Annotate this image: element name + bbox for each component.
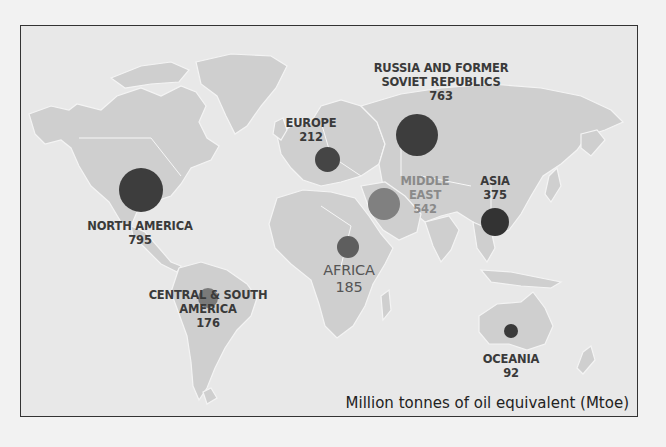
- label-middle-east: MIDDLE EAST 542: [385, 174, 465, 216]
- region-name: CENTRAL & SOUTH: [133, 288, 283, 302]
- region-name-line2: SOVIET REPUBLICS: [361, 75, 521, 89]
- region-value: 176: [133, 316, 283, 330]
- region-name: ASIA: [465, 174, 525, 188]
- label-oceania: OCEANIA 92: [476, 352, 546, 380]
- region-value: 92: [476, 366, 546, 380]
- bubble-north-america: [119, 168, 163, 212]
- label-europe: EUROPE 212: [275, 116, 347, 144]
- region-name: OCEANIA: [476, 352, 546, 366]
- region-name-line2: AMERICA: [133, 302, 283, 316]
- region-name: RUSSIA AND FORMER: [361, 61, 521, 75]
- region-name: AFRICA: [309, 262, 389, 279]
- region-name: NORTH AMERICA: [65, 219, 215, 233]
- region-value: 763: [361, 89, 521, 103]
- bubble-asia: [481, 208, 509, 236]
- label-north-america: NORTH AMERICA 795: [65, 219, 215, 247]
- world-map-frame: NORTH AMERICA 795 CENTRAL & SOUTH AMERIC…: [20, 25, 638, 417]
- region-value: 212: [275, 130, 347, 144]
- unit-caption: Million tonnes of oil equivalent (Mtoe): [346, 394, 629, 412]
- region-value: 542: [385, 202, 465, 216]
- region-value: 185: [309, 279, 389, 296]
- label-africa: AFRICA 185: [309, 262, 389, 296]
- bubble-oceania: [504, 324, 518, 338]
- label-russia: RUSSIA AND FORMER SOVIET REPUBLICS 763: [361, 61, 521, 103]
- region-name: EUROPE: [275, 116, 347, 130]
- australia-landmass: [479, 292, 553, 350]
- region-name-line2: EAST: [385, 188, 465, 202]
- region-value: 795: [65, 233, 215, 247]
- region-value: 375: [465, 188, 525, 202]
- greenland-landmass: [196, 54, 287, 134]
- bubble-africa: [337, 236, 359, 258]
- label-central-south-america: CENTRAL & SOUTH AMERICA 176: [133, 288, 283, 330]
- bubble-russia: [396, 114, 438, 156]
- label-asia: ASIA 375: [465, 174, 525, 202]
- bubble-europe: [315, 147, 340, 172]
- south-america-landmass: [171, 262, 257, 400]
- region-name: MIDDLE: [385, 174, 465, 188]
